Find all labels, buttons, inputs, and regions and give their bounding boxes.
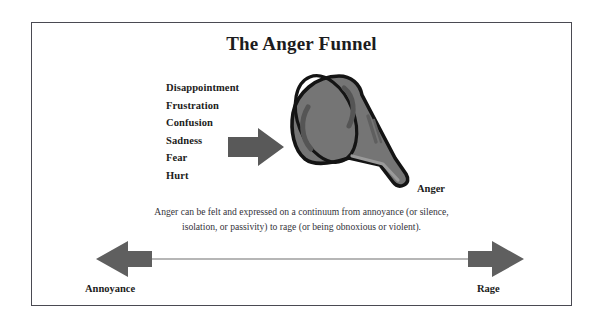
page-title: The Anger Funnel: [31, 33, 572, 55]
anger-funnel-figure: The Anger Funnel Disappointment Frustrat…: [0, 0, 606, 328]
caption-line-2: isolation, or passivity) to rage (or bei…: [110, 220, 493, 235]
figure-border: [31, 22, 572, 306]
list-item: Confusion: [166, 114, 281, 132]
list-item: Disappointment: [166, 79, 281, 97]
continuum-left-label: Annoyance: [85, 283, 135, 294]
emotion-list: Disappointment Frustration Confusion Sad…: [166, 79, 281, 185]
list-item: Frustration: [166, 97, 281, 115]
caption-line-1: Anger can be felt and expressed on a con…: [110, 205, 493, 220]
list-item: Hurt: [166, 167, 281, 185]
funnel-output-label: Anger: [417, 183, 445, 194]
continuum-right-label: Rage: [477, 283, 500, 294]
caption-text: Anger can be felt and expressed on a con…: [110, 205, 493, 234]
list-item: Fear: [166, 149, 281, 167]
list-item: Sadness: [166, 132, 281, 150]
